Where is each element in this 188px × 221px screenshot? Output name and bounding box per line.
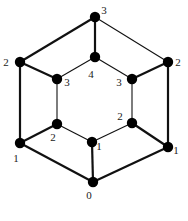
edge-top-left-outer bbox=[20, 17, 95, 62]
node-label-inner-left: 3 bbox=[64, 76, 70, 88]
edge-top-right-outer bbox=[95, 17, 168, 62]
node-inner-left bbox=[52, 74, 62, 84]
edge-inner-right-right-outer bbox=[132, 62, 168, 79]
node-inner-right bbox=[127, 74, 137, 84]
edge-left-lower-bottom bbox=[20, 143, 93, 182]
edge-right-lower-bottom bbox=[93, 147, 168, 182]
node-left-lower bbox=[15, 138, 25, 148]
node-label-inner-right: 3 bbox=[116, 76, 122, 88]
node-label-center-bottom: 1 bbox=[96, 140, 102, 152]
node-label-right-lower: 1 bbox=[173, 144, 179, 156]
node-center bbox=[90, 52, 100, 62]
edge-inner-lower-left-center-bottom bbox=[57, 124, 92, 142]
edge-inner-lower-right-right-lower bbox=[132, 123, 168, 147]
node-label-top: 3 bbox=[101, 4, 107, 16]
node-inner-lower-right bbox=[127, 118, 137, 128]
node-label-left-lower: 1 bbox=[13, 152, 19, 164]
node-label-right-outer: 2 bbox=[175, 56, 181, 68]
edge-left-outer-inner-left bbox=[20, 62, 57, 79]
node-right-lower bbox=[163, 142, 173, 152]
node-label-inner-lower-right: 2 bbox=[117, 110, 123, 122]
node-label-inner-lower-left: 2 bbox=[50, 131, 56, 143]
graph-diagram: 322433221110 bbox=[0, 0, 188, 221]
node-inner-lower-left bbox=[52, 119, 62, 129]
node-bottom bbox=[88, 177, 98, 187]
node-label-center: 4 bbox=[88, 68, 94, 80]
edges-layer bbox=[20, 17, 168, 182]
edge-center-inner-right bbox=[95, 57, 132, 79]
node-label-bottom: 0 bbox=[86, 189, 92, 201]
node-top bbox=[90, 12, 100, 22]
node-right-outer bbox=[163, 57, 173, 67]
node-left-outer bbox=[15, 57, 25, 67]
graph-canvas: 322433221110 bbox=[0, 0, 188, 221]
node-label-left-outer: 2 bbox=[3, 56, 9, 68]
edge-center-bottom-bottom bbox=[92, 142, 93, 182]
